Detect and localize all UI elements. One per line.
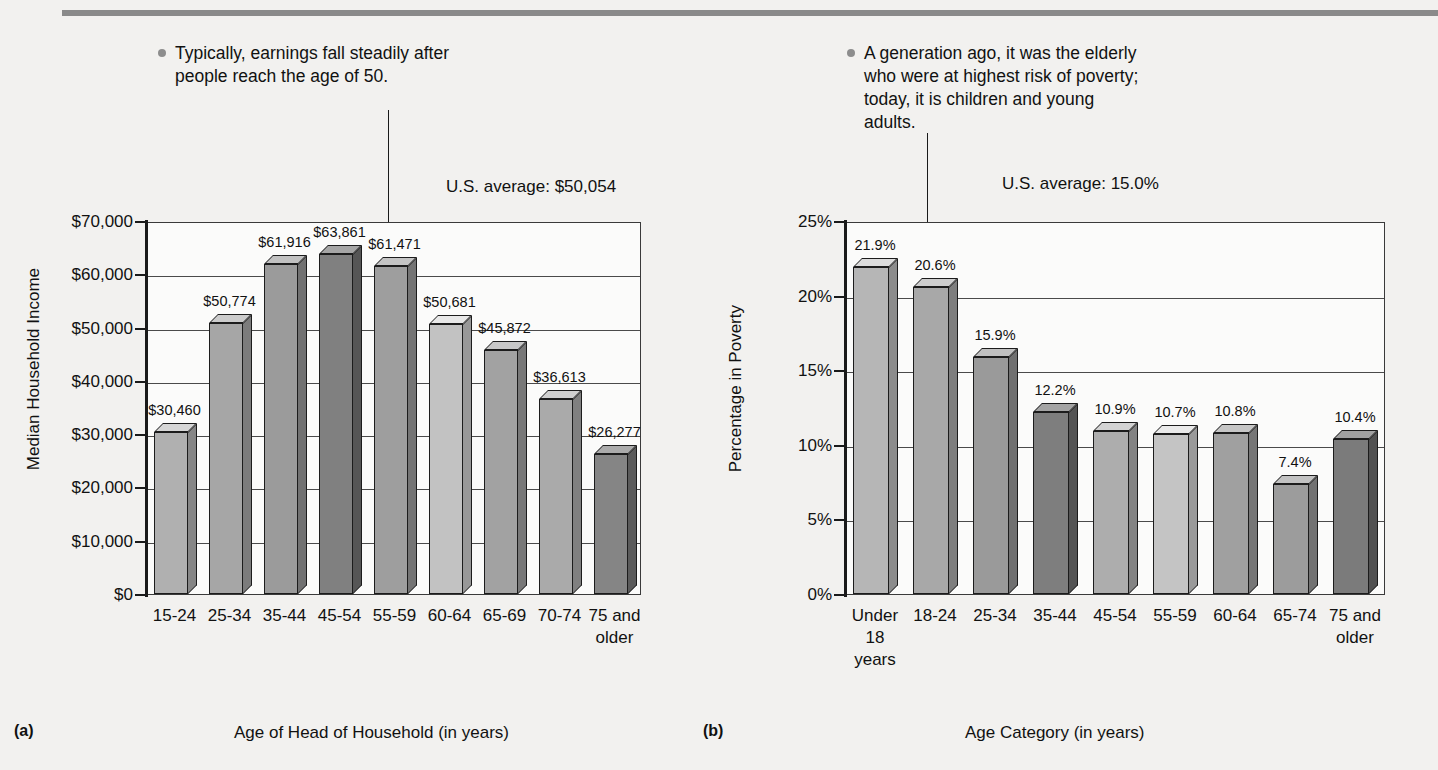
x-tick-label: 55-59 (373, 605, 416, 627)
bar[interactable] (1333, 439, 1369, 594)
x-axis-title-a: Age of Head of Household (in years) (234, 723, 509, 743)
bar-side-face (889, 258, 898, 594)
bar-value-label: 7.4% (1278, 454, 1311, 470)
bar-value-label: $63,861 (313, 224, 365, 240)
bar-group[interactable]: 12.2%35-44 (1033, 223, 1069, 594)
bar[interactable] (1093, 431, 1129, 594)
x-tick-label: 75 andolder (1329, 605, 1381, 649)
y-tick-label: $50,000 (72, 319, 133, 339)
leader-line-a (388, 110, 389, 225)
bar-top (209, 314, 243, 323)
bar-group[interactable]: $50,68160-64 (429, 223, 463, 594)
bar[interactable] (853, 267, 889, 594)
bar-side-face (1009, 348, 1018, 594)
bar-side-face (1189, 425, 1198, 594)
bar-group[interactable]: $45,87265-69 (484, 223, 518, 594)
y-tick-mark (135, 541, 146, 543)
bar-group[interactable]: 10.4%75 andolder (1333, 223, 1369, 594)
bar-front-face (154, 432, 188, 594)
bar-value-label: 21.9% (854, 237, 895, 253)
bar-top (319, 245, 353, 254)
bar-side-face (1369, 430, 1378, 594)
y-tick-mark (135, 434, 146, 436)
y-axis-b (844, 220, 847, 597)
bar-group[interactable]: $61,47155-59 (374, 223, 408, 594)
bar[interactable] (539, 399, 573, 594)
bar-side (573, 399, 582, 594)
x-tick-label: 60-64 (1213, 605, 1256, 627)
bar[interactable] (594, 454, 628, 594)
bar-value-label: 10.9% (1094, 401, 1135, 417)
bar-group[interactable]: 10.8%60-64 (1213, 223, 1249, 594)
bar-front-face (594, 454, 628, 594)
bar[interactable] (1273, 484, 1309, 594)
x-tick-label: 65-69 (483, 605, 526, 627)
bar[interactable] (913, 287, 949, 594)
bar-side-face (353, 245, 362, 594)
bar[interactable] (264, 264, 298, 594)
bar-side (243, 323, 252, 594)
bar-side (1309, 484, 1318, 594)
y-tick-mark (135, 594, 146, 596)
bar-group[interactable]: 7.4%65-74 (1273, 223, 1309, 594)
bar-group[interactable]: 10.9%45-54 (1093, 223, 1129, 594)
x-tick-label: 35-44 (263, 605, 306, 627)
bar-group[interactable]: $50,77425-34 (209, 223, 243, 594)
x-axis-title-b: Age Category (in years) (965, 723, 1145, 743)
us-average-b: U.S. average: 15.0% (1002, 174, 1159, 194)
bar-front-face (1273, 484, 1309, 594)
bar-group[interactable]: $26,27775 andolder (594, 223, 628, 594)
bar-front-face (1213, 433, 1249, 594)
x-tick-label: 45-54 (318, 605, 361, 627)
bar-side (1369, 439, 1378, 594)
bar[interactable] (319, 254, 353, 594)
plot-area-a: $30,46015-24$50,77425-34$61,91635-44$63,… (146, 222, 641, 595)
bar[interactable] (154, 432, 188, 594)
bar-top (1153, 425, 1189, 434)
callout-a: Typically, earnings fall steadily after … (158, 42, 488, 88)
bar-group[interactable]: 10.7%55-59 (1153, 223, 1189, 594)
chart-b: 21.9%Under18years20.6%18-2415.9%25-3412.… (845, 222, 1385, 595)
bar-top (374, 257, 408, 266)
y-tick-label: $0 (114, 585, 133, 605)
bar-side (1069, 412, 1078, 594)
bar[interactable] (973, 357, 1009, 594)
bar-group[interactable]: 21.9%Under18years (853, 223, 889, 594)
y-tick-label: $40,000 (72, 372, 133, 392)
bar-group[interactable]: 20.6%18-24 (913, 223, 949, 594)
us-average-a: U.S. average: $50,054 (446, 177, 616, 197)
y-tick-label: 25% (798, 212, 832, 232)
bar-group[interactable]: $36,61370-74 (539, 223, 573, 594)
bar-group[interactable]: $63,86145-54 (319, 223, 353, 594)
bar[interactable] (209, 323, 243, 594)
y-tick-mark (135, 487, 146, 489)
y-axis-title-b: Percentage in Poverty (726, 305, 746, 472)
bar-top (1093, 422, 1129, 431)
bar-group[interactable]: $30,46015-24 (154, 223, 188, 594)
bar[interactable] (484, 350, 518, 594)
bar[interactable] (1153, 434, 1189, 594)
x-tick-label: 55-59 (1153, 605, 1196, 627)
bar-top (154, 423, 188, 432)
bar-side (889, 267, 898, 594)
x-tick-label: 35-44 (1033, 605, 1076, 627)
bar-value-label: 12.2% (1034, 382, 1075, 398)
bar[interactable] (429, 324, 463, 594)
bar-group[interactable]: $61,91635-44 (264, 223, 298, 594)
bar-side-face (518, 341, 527, 594)
bar-top (973, 348, 1009, 357)
bar-value-label: 10.7% (1154, 404, 1195, 420)
y-tick-label: $70,000 (72, 212, 133, 232)
bar[interactable] (374, 266, 408, 594)
x-tick-label: 65-74 (1273, 605, 1316, 627)
bar-side-face (949, 278, 958, 594)
bar-value-label: 10.8% (1214, 403, 1255, 419)
x-tick-label: 18-24 (913, 605, 956, 627)
y-tick-mark (135, 381, 146, 383)
bar-side (408, 266, 417, 594)
bar[interactable] (1033, 412, 1069, 594)
bar[interactable] (1213, 433, 1249, 594)
y-tick-label: 10% (798, 436, 832, 456)
bar-value-label: 20.6% (914, 257, 955, 273)
bar-group[interactable]: 15.9%25-34 (973, 223, 1009, 594)
